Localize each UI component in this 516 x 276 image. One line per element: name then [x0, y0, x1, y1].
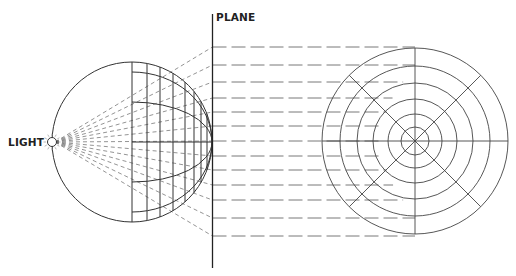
- light-ray: [55, 142, 213, 156]
- sphere-arc: [132, 102, 212, 142]
- projected-grid: [322, 48, 508, 234]
- light-ray: [55, 126, 213, 142]
- light-ray: [55, 112, 213, 142]
- light-glow-ray: [57, 138, 59, 139]
- light-glow-ray: [55, 147, 56, 149]
- light-glow-ray: [55, 135, 56, 137]
- diagram-canvas: [0, 0, 516, 276]
- light-glow-ray: [48, 147, 49, 149]
- light-ray: [55, 47, 213, 142]
- light-ray: [55, 98, 213, 142]
- light-glow-ray: [45, 145, 47, 146]
- light-ray: [55, 142, 213, 185]
- light-ray: [55, 142, 213, 170]
- projector-lines: [213, 47, 416, 236]
- light-label: LIGHT: [8, 136, 44, 148]
- light-ray: [55, 82, 213, 142]
- light-glow-ray: [48, 135, 49, 137]
- plane-label: PLANE: [216, 11, 255, 23]
- light-glow-ray: [57, 145, 59, 146]
- sphere-arc: [132, 142, 212, 182]
- light-ray: [55, 142, 213, 218]
- light-bulb: [48, 138, 57, 147]
- sphere: [52, 62, 212, 222]
- light-ray: [55, 65, 213, 142]
- light-glow-ray: [45, 138, 47, 139]
